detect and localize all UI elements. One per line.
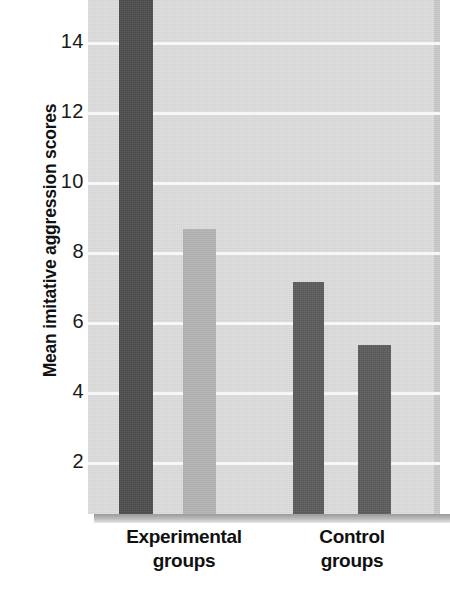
y-tick-label-8: 8 <box>38 240 84 263</box>
category-label-line1: Control <box>267 525 437 549</box>
bar <box>358 345 391 514</box>
category-label-line2: groups <box>79 549 289 573</box>
y-tick-label-6: 6 <box>38 310 84 333</box>
category-label: Controlgroups <box>267 525 437 574</box>
plot-right-edge <box>434 0 440 514</box>
bar <box>183 229 216 514</box>
x-axis-category-labels: ExperimentalgroupsControlgroups <box>88 525 450 607</box>
bar-chart: Mean imitative aggression scores 1412108… <box>0 0 450 607</box>
y-tick-label-12: 12 <box>38 100 84 123</box>
category-label-line2: groups <box>267 549 437 573</box>
y-tick-label-4: 4 <box>38 380 84 403</box>
y-axis-tick-labels: 1412108642 <box>28 0 84 607</box>
plot-drop-shadow <box>94 514 450 523</box>
bar <box>119 0 153 514</box>
plot-area <box>88 0 440 514</box>
category-label: Experimentalgroups <box>79 525 289 574</box>
category-label-line1: Experimental <box>79 525 289 549</box>
y-tick-label-2: 2 <box>38 450 84 473</box>
y-tick-label-10: 10 <box>38 170 84 193</box>
bar <box>293 282 324 514</box>
y-tick-label-14: 14 <box>38 30 84 53</box>
